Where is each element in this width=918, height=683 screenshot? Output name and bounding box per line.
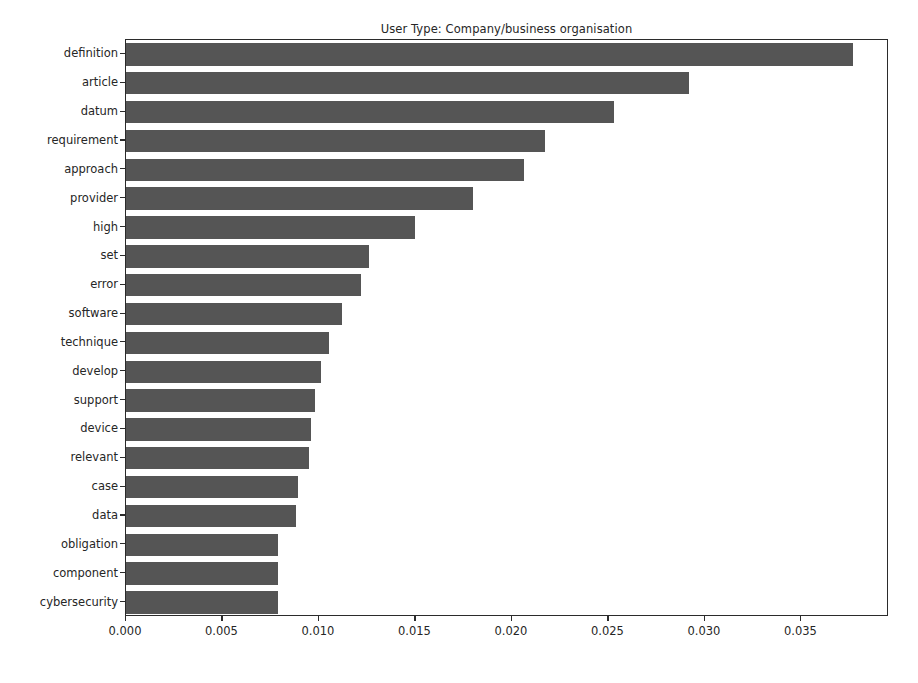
bar-set	[126, 245, 369, 267]
x-tick-mark	[704, 616, 705, 621]
bar-data	[126, 505, 296, 527]
bar-develop	[126, 361, 321, 383]
y-tick-mark	[120, 197, 125, 198]
bar-component	[126, 562, 278, 584]
y-tick-mark	[120, 572, 125, 573]
x-tick-mark	[511, 616, 512, 621]
x-tick-label-0.030: 0.030	[687, 624, 720, 638]
bar-device	[126, 418, 311, 440]
y-tick-mark	[120, 399, 125, 400]
x-tick-mark	[125, 616, 126, 621]
chart-title: User Type: Company/business organisation	[125, 22, 888, 36]
y-tick-mark	[120, 255, 125, 256]
y-tick-mark	[120, 284, 125, 285]
x-tick-label-0.015: 0.015	[398, 624, 431, 638]
bar-case	[126, 476, 298, 498]
y-tick-mark	[120, 313, 125, 314]
y-tick-mark	[120, 139, 125, 140]
y-tick-mark	[120, 428, 125, 429]
y-tick-mark	[120, 82, 125, 83]
y-tick-mark	[120, 543, 125, 544]
x-tick-label-0.025: 0.025	[591, 624, 624, 638]
x-tick-label-0.005: 0.005	[205, 624, 238, 638]
y-tick-mark	[120, 341, 125, 342]
bar-obligation	[126, 534, 278, 556]
x-axis-ticks: 0.0000.0050.0100.0150.0200.0250.0300.035	[125, 616, 888, 656]
bar-definition	[126, 43, 853, 65]
bar-approach	[126, 159, 524, 181]
x-tick-label-0.000: 0.000	[109, 624, 142, 638]
bar-high	[126, 216, 415, 238]
bars-container	[126, 40, 887, 615]
y-tick-mark	[120, 601, 125, 602]
x-tick-mark	[414, 616, 415, 621]
x-tick-label-0.035: 0.035	[784, 624, 817, 638]
y-axis-tick-marks	[0, 39, 130, 616]
plot-area	[125, 39, 888, 616]
x-tick-mark	[800, 616, 801, 621]
bar-article	[126, 72, 689, 94]
bar-technique	[126, 332, 329, 354]
x-tick-label-0.020: 0.020	[494, 624, 527, 638]
y-tick-mark	[120, 111, 125, 112]
bar-support	[126, 389, 315, 411]
x-tick-mark	[221, 616, 222, 621]
x-tick-mark	[318, 616, 319, 621]
y-tick-mark	[120, 226, 125, 227]
y-tick-mark	[120, 168, 125, 169]
y-tick-mark	[120, 457, 125, 458]
y-tick-mark	[120, 514, 125, 515]
x-tick-mark	[607, 616, 608, 621]
y-tick-mark	[120, 486, 125, 487]
bar-error	[126, 274, 361, 296]
bar-relevant	[126, 447, 309, 469]
x-tick-label-0.010: 0.010	[302, 624, 335, 638]
y-tick-mark	[120, 53, 125, 54]
y-tick-mark	[120, 370, 125, 371]
bar-software	[126, 303, 342, 325]
chart-figure: User Type: Company/business organisation…	[0, 0, 918, 683]
bar-cybersecurity	[126, 591, 278, 613]
bar-requirement	[126, 130, 545, 152]
bar-provider	[126, 187, 473, 209]
bar-datum	[126, 101, 614, 123]
